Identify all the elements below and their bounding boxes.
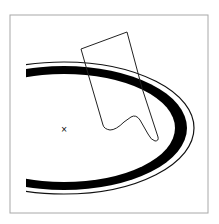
ellipse-group xyxy=(0,0,219,224)
thick-elliptical-band xyxy=(0,0,219,224)
center-x-marker-icon: × xyxy=(61,125,68,134)
diagram-canvas: × xyxy=(0,0,219,224)
